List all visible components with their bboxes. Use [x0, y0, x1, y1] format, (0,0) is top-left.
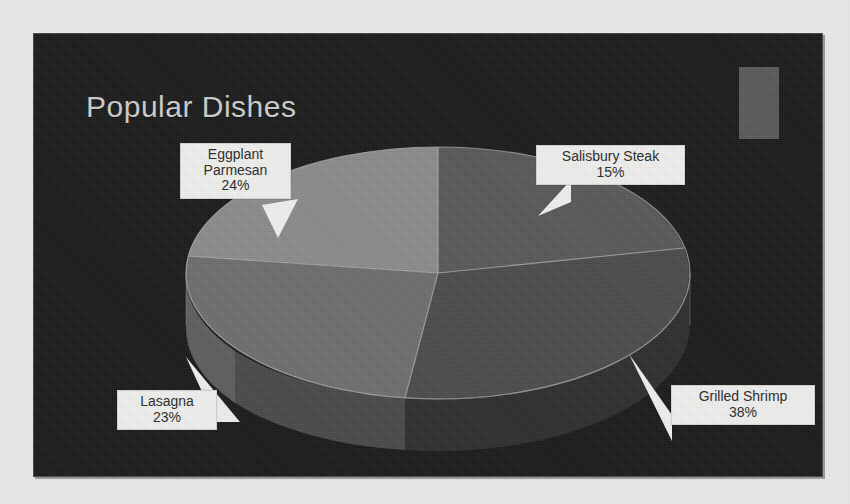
- callout-lasagna[interactable]: Lasagna 23%: [117, 390, 217, 430]
- callout-label-name: Salisbury Steak: [543, 149, 678, 165]
- chart-panel: Popular Dishes: [33, 33, 823, 477]
- callout-eggplant-parmesan[interactable]: Eggplant Parmesan 24%: [180, 143, 291, 199]
- callout-label-name: Grilled Shrimp: [678, 389, 808, 405]
- slide-canvas: Popular Dishes: [0, 0, 850, 504]
- callout-salisbury-steak[interactable]: Salisbury Steak 15%: [536, 145, 685, 185]
- callout-label-value: 15%: [543, 165, 678, 181]
- callout-label-value: 23%: [124, 410, 210, 426]
- callout-label-name2: Parmesan: [187, 163, 284, 179]
- callout-label-name: Lasagna: [124, 394, 210, 410]
- callout-grilled-shrimp[interactable]: Grilled Shrimp 38%: [671, 385, 815, 425]
- callout-label-value: 38%: [678, 405, 808, 421]
- callout-label-name: Eggplant: [187, 147, 284, 163]
- callout-label-value: 24%: [187, 178, 284, 194]
